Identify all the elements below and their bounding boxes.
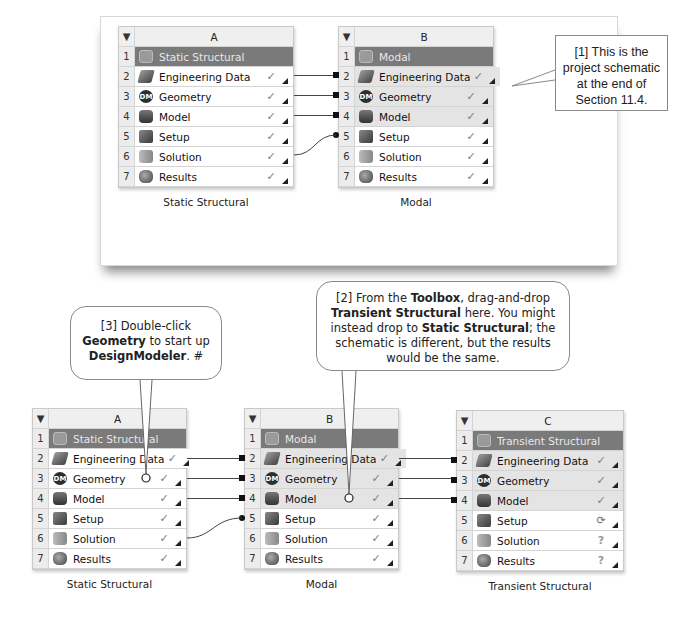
connector-overlay [0, 0, 681, 622]
